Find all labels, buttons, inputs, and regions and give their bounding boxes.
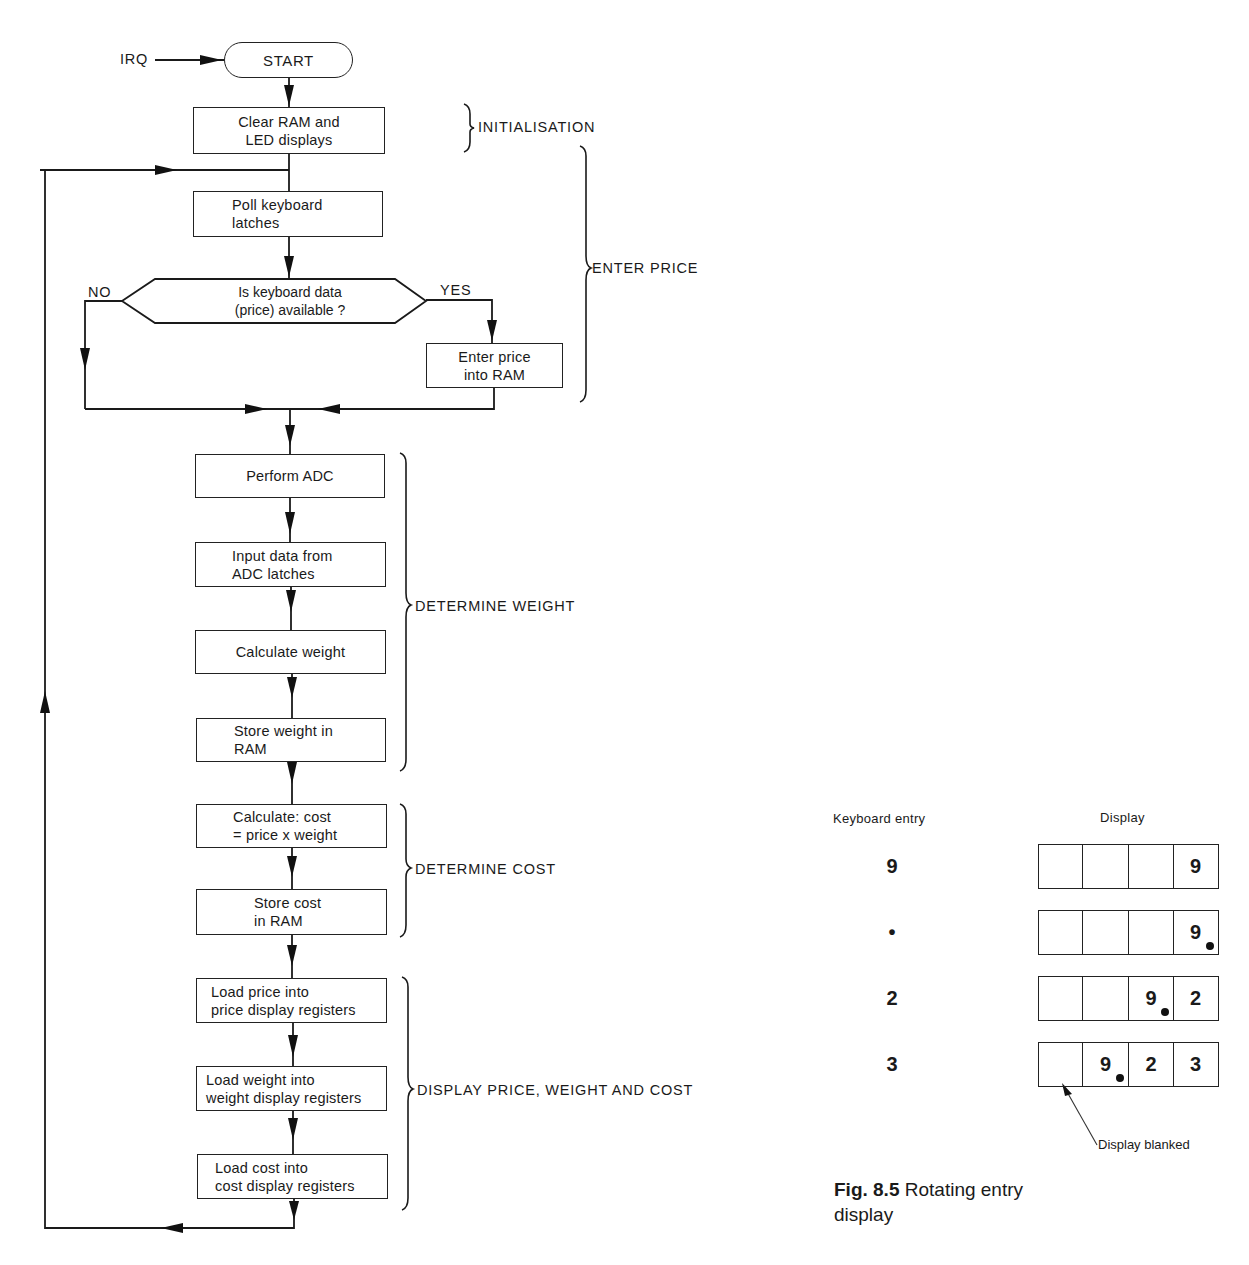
step-text: weight display registers: [206, 1089, 362, 1107]
step-calculate-weight: Calculate weight: [195, 630, 386, 674]
entry-key-4: 3: [877, 1053, 907, 1076]
step-text: Input data from: [232, 547, 333, 565]
step-text: into RAM: [464, 366, 525, 384]
annotation-display-blanked: Display blanked: [1098, 1137, 1190, 1152]
entry-key-3: 2: [877, 987, 907, 1010]
entry-key-2: •: [877, 921, 907, 944]
caption-number: Fig. 8.5: [834, 1179, 899, 1200]
display-cell: 2: [1174, 977, 1217, 1020]
group-label-display: DISPLAY PRICE, WEIGHT AND COST: [417, 1082, 693, 1098]
step-text: Clear RAM and: [238, 113, 340, 131]
step-text: price display registers: [211, 1001, 356, 1019]
step-load-cost: Load cost into cost display registers: [197, 1154, 388, 1199]
step-text: LED displays: [245, 131, 332, 149]
step-store-weight: Store weight in RAM: [196, 718, 386, 762]
display-cell: [1129, 845, 1174, 888]
step-clear-ram: Clear RAM and LED displays: [193, 107, 385, 154]
display-cell: [1039, 977, 1083, 1020]
step-text: Enter price: [458, 348, 530, 366]
display-cell: [1039, 845, 1083, 888]
step-text: Store cost: [254, 894, 321, 912]
step-text: Load cost into: [215, 1159, 308, 1177]
step-poll-keyboard: Poll keyboard latches: [193, 191, 383, 237]
irq-label: IRQ: [120, 51, 148, 67]
step-text: ADC latches: [232, 565, 315, 583]
step-text: Load price into: [211, 983, 309, 1001]
group-label-enter-price: ENTER PRICE: [592, 260, 698, 276]
group-label-determine-weight: DETERMINE WEIGHT: [415, 598, 575, 614]
step-perform-adc: Perform ADC: [195, 454, 385, 498]
branch-label-yes: YES: [440, 282, 471, 298]
display-cell: 9: [1129, 977, 1174, 1020]
decimal-point-icon: [1161, 1008, 1169, 1016]
display-row-1: 9: [1038, 844, 1219, 889]
decision-text: Is keyboard data: [200, 283, 380, 301]
display-cell: [1039, 911, 1083, 954]
start-label: START: [263, 52, 314, 69]
header-display: Display: [1100, 810, 1145, 825]
display-cell: 9: [1174, 845, 1217, 888]
display-cell: [1083, 911, 1129, 954]
digit: 9: [1145, 987, 1156, 1010]
decimal-point-icon: [1116, 1074, 1124, 1082]
caption-title-line2: display: [834, 1204, 893, 1225]
step-calculate-cost: Calculate: cost = price x weight: [196, 804, 387, 848]
group-label-determine-cost: DETERMINE COST: [415, 861, 556, 877]
step-text: Load weight into: [206, 1071, 315, 1089]
display-row-4: 9 2 3: [1038, 1042, 1219, 1087]
display-row-3: 9 2: [1038, 976, 1219, 1021]
branch-label-no: NO: [88, 284, 111, 300]
display-cell-blanked: [1039, 1043, 1083, 1086]
step-store-cost: Store cost in RAM: [196, 889, 387, 935]
group-label-initialisation: INITIALISATION: [478, 119, 595, 135]
figure-caption: Fig. 8.5 Rotating entry display: [834, 1177, 1023, 1227]
display-row-2: 9: [1038, 910, 1219, 955]
brace-determine-weight: [400, 453, 411, 771]
display-cell: 2: [1129, 1043, 1174, 1086]
step-text: Store weight in: [234, 722, 333, 740]
caption-title-line1: Rotating entry: [905, 1179, 1023, 1200]
start-terminal: START: [224, 42, 353, 78]
display-cell: 3: [1174, 1043, 1217, 1086]
display-cell: [1083, 845, 1129, 888]
digit: 9: [1100, 1053, 1111, 1076]
decision-text: (price) available ?: [200, 301, 380, 319]
step-load-price: Load price into price display registers: [196, 978, 387, 1023]
step-text: in RAM: [254, 912, 303, 930]
display-cell: [1129, 911, 1174, 954]
entry-key-1: 9: [877, 855, 907, 878]
step-text: Poll keyboard: [232, 196, 322, 214]
display-cell: 9: [1174, 911, 1217, 954]
step-text: latches: [232, 214, 279, 232]
digit: 9: [1190, 921, 1201, 944]
brace-initialisation: [464, 104, 474, 152]
step-text: RAM: [234, 740, 267, 758]
decision-keyboard-data: Is keyboard data (price) available ?: [200, 283, 380, 319]
brace-enter-price: [580, 146, 591, 402]
brace-display: [402, 977, 413, 1210]
step-text: = price x weight: [233, 826, 337, 844]
step-enter-price: Enter price into RAM: [426, 343, 563, 388]
step-load-weight: Load weight into weight display register…: [196, 1066, 387, 1111]
brace-determine-cost: [400, 804, 411, 937]
display-cell: [1083, 977, 1129, 1020]
step-text: Calculate: cost: [233, 808, 331, 826]
step-text: Calculate weight: [236, 643, 346, 661]
step-text: cost display registers: [215, 1177, 355, 1195]
step-input-data: Input data from ADC latches: [195, 542, 386, 587]
step-text: Perform ADC: [246, 467, 334, 485]
display-cell: 9: [1083, 1043, 1129, 1086]
header-keyboard-entry: Keyboard entry: [833, 811, 925, 826]
decimal-point-icon: [1206, 942, 1214, 950]
page-canvas: IRQ START Clear RAM and LED displays INI…: [0, 0, 1249, 1265]
